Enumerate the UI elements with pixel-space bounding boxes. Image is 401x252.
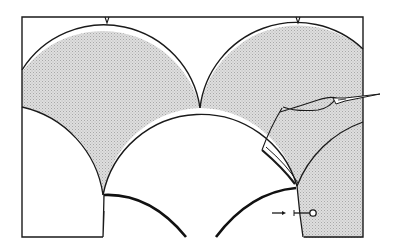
clamshell-diagram: Clamshell patchwork piecing diagram <box>0 0 401 252</box>
diagram-canvas <box>0 0 401 252</box>
center-notch-left-icon <box>105 17 109 23</box>
